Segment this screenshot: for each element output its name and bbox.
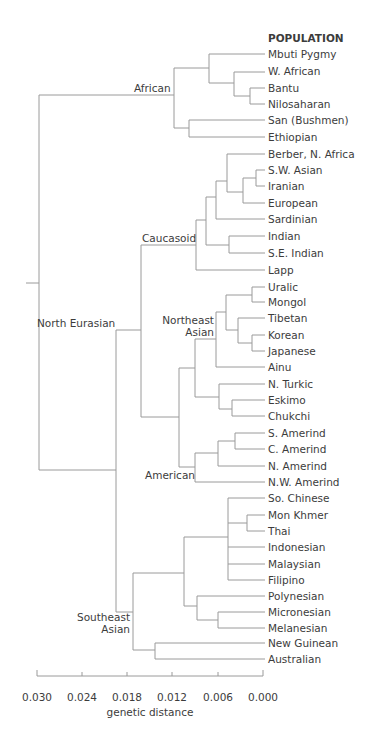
leaf-label: Mongol (268, 296, 306, 308)
leaf-label: Japanese (268, 345, 316, 357)
leaf-label: Mbuti Pygmy (268, 48, 336, 60)
leaf-label: S.W. Asian (268, 164, 323, 176)
leaf-label: Melanesian (268, 622, 327, 634)
leaf-label: Tibetan (268, 312, 307, 324)
x-tick-label: 0.006 (203, 691, 233, 703)
leaf-label: Korean (268, 329, 304, 341)
clade-label-american: American (145, 469, 195, 481)
x-tick-label: 0.024 (67, 691, 97, 703)
clade-label-line: Asian (156, 326, 214, 338)
leaf-label: S.E. Indian (268, 247, 324, 259)
population-header: POPULATION (268, 32, 344, 44)
clade-label-african: African (134, 82, 171, 94)
leaf-label: Indonesian (268, 541, 325, 553)
x-axis-label: genetic distance (107, 706, 194, 718)
leaf-label: So. Chinese (268, 492, 330, 504)
leaf-label: Ethiopian (268, 131, 317, 143)
leaf-label: Eskimo (268, 394, 306, 406)
leaf-label: New Guinean (268, 637, 338, 649)
leaf-label: Mon Khmer (268, 509, 328, 521)
leaf-label: Indian (268, 230, 300, 242)
clade-label-line: Southeast (72, 611, 130, 623)
clade-label-line: Asian (72, 623, 130, 635)
leaf-label: Australian (268, 653, 321, 665)
leaf-label: Lapp (268, 264, 294, 276)
leaf-label: W. African (268, 65, 320, 77)
leaf-label: Thai (268, 525, 290, 537)
leaf-label: Berber, N. Africa (268, 148, 355, 160)
x-tick-label: 0.000 (248, 691, 278, 703)
leaf-label: Filipino (268, 574, 305, 586)
clade-label-north-eurasian: North Eurasian (37, 317, 115, 329)
clade-label-northeast-asian: Northeast Asian (156, 314, 214, 338)
leaf-label: Micronesian (268, 606, 331, 618)
clade-label-caucasoid: Caucasoid (142, 232, 196, 244)
leaf-label: Iranian (268, 180, 305, 192)
leaf-label: Ainu (268, 361, 291, 373)
leaf-label: Nilosaharan (268, 98, 331, 110)
clade-label-southeast-asian: Southeast Asian (72, 611, 130, 635)
x-tick-label: 0.012 (157, 691, 187, 703)
leaf-label: Polynesian (268, 590, 324, 602)
leaf-label: San (Bushmen) (268, 114, 349, 126)
x-tick-label: 0.018 (112, 691, 142, 703)
clade-label-line: Northeast (156, 314, 214, 326)
leaf-label: European (268, 197, 318, 209)
leaf-label: S. Amerind (268, 427, 326, 439)
leaf-label: Bantu (268, 82, 299, 94)
leaf-label: Uralic (268, 281, 298, 293)
leaf-label: N.W. Amerind (268, 476, 339, 488)
leaf-label: N. Turkic (268, 378, 313, 390)
leaf-label: C. Amerind (268, 443, 326, 455)
leaf-label: Sardinian (268, 213, 317, 225)
leaf-label: N. Amerind (268, 460, 327, 472)
leaf-label: Chukchi (268, 410, 310, 422)
leaf-label: Malaysian (268, 558, 321, 570)
x-tick-label: 0.030 (22, 691, 52, 703)
